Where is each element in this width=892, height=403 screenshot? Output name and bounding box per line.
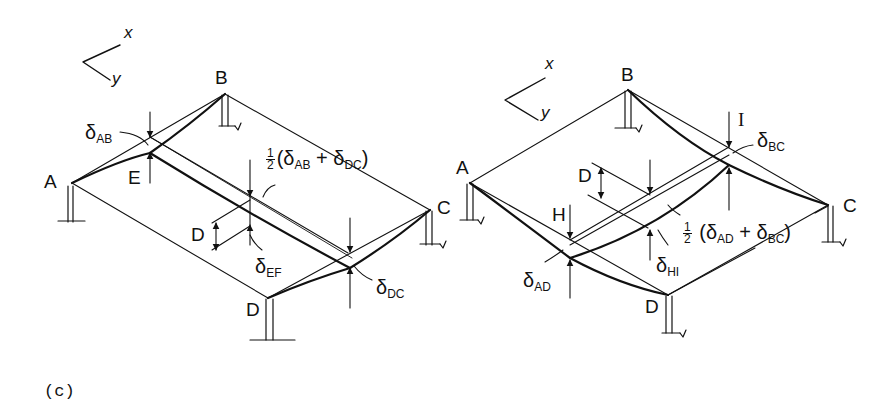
left-corner-c: C <box>437 198 451 217</box>
right-axes-icon <box>505 78 545 120</box>
right-axis-x-label: x <box>545 55 554 72</box>
left-axis-y-label: y <box>112 70 121 87</box>
left-dim-d-label: D <box>191 225 205 244</box>
half-fraction: 12 <box>266 148 275 171</box>
right-dim-d-label: D <box>578 166 592 185</box>
right-deflected-curves <box>470 90 828 295</box>
right-average-deflection-label: 12 (δAD + δBC) <box>683 222 791 245</box>
left-corner-a: A <box>44 172 57 191</box>
left-delta-ab-label: δAB <box>85 122 112 145</box>
right-corner-c: C <box>843 196 857 215</box>
right-delta-bc-label: δBC <box>757 130 785 153</box>
figure-caption: (c) <box>44 383 75 400</box>
right-axis-y-label: y <box>541 104 550 121</box>
right-corner-d: D <box>645 297 659 316</box>
left-average-deflection-label: 12(δAB + δDC) <box>266 148 368 171</box>
right-corner-b: B <box>621 65 634 84</box>
left-delta-ef-label: δEF <box>255 256 281 279</box>
half-fraction: 12 <box>683 222 692 245</box>
left-slab-outline <box>72 94 430 298</box>
right-corner-a: A <box>456 158 469 177</box>
right-point-i: I <box>738 110 744 129</box>
left-delta-dc-label: δDC <box>376 277 404 300</box>
right-delta-ad-label: δAD <box>523 270 551 293</box>
right-point-h: H <box>552 205 566 224</box>
right-delta-hi-label: δHI <box>656 255 679 278</box>
left-axis-x-label: x <box>124 24 133 41</box>
right-slab-outline <box>470 90 828 295</box>
right-dimension-arrows <box>545 112 755 298</box>
left-corner-d: D <box>246 300 260 319</box>
left-corner-b: B <box>215 68 228 87</box>
left-point-e: E <box>128 168 141 187</box>
